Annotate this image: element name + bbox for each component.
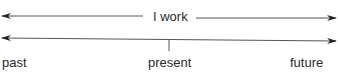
timeline-diagram: I work past present future — [0, 0, 338, 83]
future-label: future — [290, 56, 323, 70]
timeline-arrow — [2, 38, 336, 51]
top-arrow-label: I work — [153, 10, 188, 24]
present-label: present — [148, 56, 191, 70]
past-label: past — [2, 56, 27, 70]
